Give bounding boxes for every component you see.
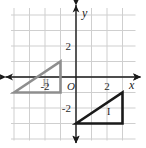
y-axis-label: y [81,6,88,20]
x-tick-label: -2 [40,80,49,92]
coordinate-plane-svg: III-222-2Oyx [0,0,146,148]
x-tick-label: 2 [104,80,110,92]
y-tick-label: -2 [62,102,71,114]
origin-label: O [67,80,75,92]
coordinate-plane-figure: III-222-2Oyx [0,0,146,148]
x-axis-label: x [128,78,135,92]
grid-lines [11,8,136,141]
y-tick-label: 2 [66,40,72,52]
triangle-one-label: I [107,106,110,117]
